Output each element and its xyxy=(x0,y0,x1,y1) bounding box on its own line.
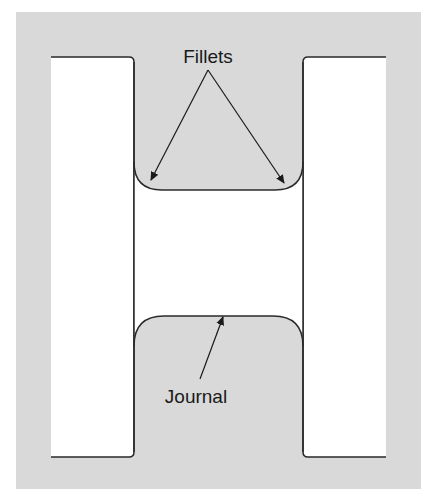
left-cavity xyxy=(51,57,134,457)
right-cavity xyxy=(303,57,386,457)
journal-fillet-diagram: Fillets Journal xyxy=(0,0,436,500)
fillets-label: Fillets xyxy=(183,46,233,67)
journal-label: Journal xyxy=(165,386,227,407)
